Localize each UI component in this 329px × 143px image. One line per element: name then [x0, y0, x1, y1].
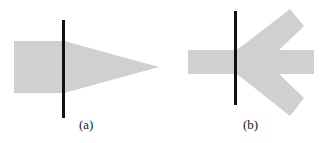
caption-a: (a)	[79, 117, 93, 133]
panel-b-shape	[188, 9, 314, 116]
panel-b-vertical-line	[234, 11, 237, 105]
panel-a-shape	[14, 41, 159, 93]
panel-b-shape-join	[236, 45, 245, 79]
panel-a-vertical-line	[62, 20, 65, 118]
panel-b	[188, 9, 314, 116]
caption-b: (b)	[243, 117, 258, 133]
panel-a	[14, 20, 159, 118]
figure-canvas	[0, 0, 329, 143]
